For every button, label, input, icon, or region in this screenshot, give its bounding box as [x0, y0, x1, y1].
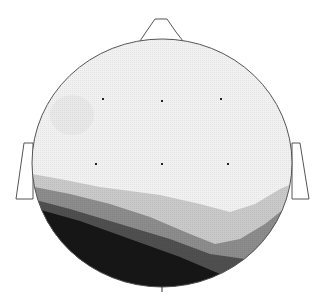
electrode-dot	[227, 163, 229, 165]
electrode-dot	[161, 100, 163, 102]
nose-outline	[140, 19, 183, 41]
electrode-dot	[161, 163, 163, 165]
electrode-dot	[102, 98, 104, 100]
right-ear-outline	[292, 143, 309, 199]
scalp-topography-map	[0, 0, 323, 303]
electrode-dot	[220, 98, 222, 100]
left-ear-outline	[16, 143, 33, 199]
electrode-dot	[95, 163, 97, 165]
